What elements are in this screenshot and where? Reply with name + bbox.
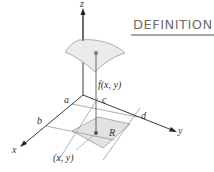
function-label: f(x, y) [98, 79, 122, 91]
definition-title: DEFINITION [133, 17, 213, 32]
region-r [72, 117, 130, 148]
region-point [94, 131, 98, 135]
bound-b-label: b [37, 115, 42, 126]
x-axis-label: x [11, 144, 17, 155]
z-axis-arrow-icon [81, 8, 86, 15]
y-axis-arrow-icon [169, 127, 177, 132]
definition-header: DEFINITION [131, 17, 214, 35]
gridline-a [72, 104, 138, 117]
y-axis-label: y [177, 125, 183, 136]
bound-a-label: a [64, 94, 69, 105]
surface-point [94, 51, 98, 55]
z-axis-label: z [79, 0, 84, 9]
surface-patch [65, 40, 125, 72]
region-label: R [108, 127, 115, 138]
double-integral-definition-diagram: DEFINITION z y x a b c d R f(x, y) (x, y… [0, 0, 214, 172]
point-label: (x, y) [53, 152, 74, 164]
x-axis-arrow-icon [20, 141, 27, 148]
x-axis [24, 95, 83, 144]
bound-c-label: c [102, 94, 107, 105]
